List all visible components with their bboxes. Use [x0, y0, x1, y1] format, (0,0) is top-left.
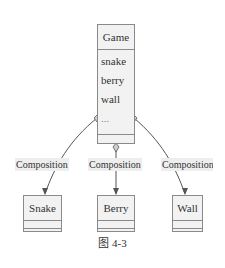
attribute-wall: wall: [101, 90, 134, 109]
class-game[interactable]: Game snake berry wall ...: [97, 24, 135, 144]
relation-label-snake: Composition: [15, 158, 69, 171]
attribute-section: [24, 221, 61, 229]
figure-caption: 图 4-3: [0, 234, 225, 250]
class-name: Game: [98, 25, 134, 50]
attribute-snake: snake: [101, 52, 134, 71]
class-name: Snake: [24, 196, 61, 221]
attribute-section: [173, 221, 202, 229]
attribute-list: snake berry wall ...: [98, 50, 134, 135]
relation-label-wall: Composition: [161, 158, 213, 171]
composition-diamond-middle: [113, 143, 119, 152]
class-berry[interactable]: Berry: [97, 195, 135, 232]
class-name: Wall: [173, 196, 202, 221]
class-name: Berry: [98, 196, 134, 221]
class-wall[interactable]: Wall: [172, 195, 203, 232]
attribute-section: [98, 221, 134, 229]
class-snake[interactable]: Snake: [23, 195, 62, 232]
attribute-more: ...: [101, 109, 134, 128]
relation-label-berry: Composition: [88, 158, 142, 171]
attribute-berry: berry: [101, 71, 134, 90]
